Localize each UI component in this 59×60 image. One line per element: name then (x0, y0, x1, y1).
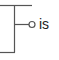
leaf-node-circle-icon (29, 22, 35, 28)
tree-connector-lines (0, 0, 59, 60)
node-label: is (39, 16, 49, 32)
